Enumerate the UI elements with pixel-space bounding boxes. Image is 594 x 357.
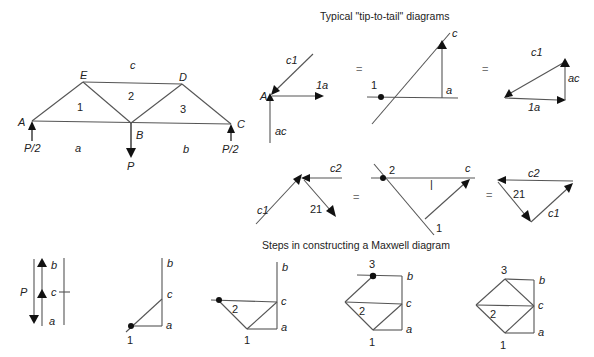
label-3: 3 — [369, 258, 375, 270]
label-1: 1 — [369, 336, 375, 348]
label-1a: 1a — [316, 79, 328, 91]
vector-1a — [505, 98, 558, 100]
label-b: b — [407, 270, 413, 282]
reaction-label-left: P/2 — [24, 142, 41, 154]
divider-mark: | — [430, 178, 433, 190]
region-label-1: 1 — [77, 101, 83, 113]
node-label-b: B — [136, 129, 143, 141]
row2-construction: 2 c 1 — [371, 162, 475, 235]
equals-sign: = — [482, 63, 488, 75]
label-1: 1 — [500, 339, 506, 351]
line-c1-direction — [372, 33, 450, 124]
label-ac: ac — [275, 125, 287, 137]
member-c2 — [476, 305, 534, 306]
arrowhead-up-icon — [437, 40, 447, 49]
label-b: b — [539, 274, 545, 286]
maxwell-step-5: 3 b c 2 a 1 — [476, 264, 545, 351]
equals-sign: = — [356, 63, 362, 75]
equals-sign: = — [353, 191, 359, 203]
node-label-d: D — [179, 71, 187, 83]
arrowhead-icon — [564, 183, 573, 193]
member-c1 — [505, 306, 534, 333]
label-ac: ac — [568, 72, 580, 84]
maxwell-step-3: b c 2 a 1 — [211, 261, 288, 346]
label-c2: c2 — [528, 167, 540, 179]
label-c1: c1 — [548, 207, 560, 219]
vector-c1 — [256, 180, 297, 224]
member-c2 — [345, 302, 402, 304]
point-1-dot — [378, 94, 384, 100]
label-b: b — [51, 259, 57, 271]
title-tip-to-tail: Typical "tip-to-tail" diagrams — [320, 10, 449, 22]
arrowhead-up-icon — [227, 124, 235, 133]
label-2: 2 — [389, 164, 395, 176]
label-a: a — [538, 326, 544, 338]
arrowhead-icon — [504, 89, 513, 98]
label-c1: c1 — [531, 46, 543, 58]
arrowhead-up-icon — [28, 121, 36, 130]
node-label-a: A — [17, 116, 25, 128]
label-b: b — [282, 261, 288, 273]
label-p: P — [20, 286, 28, 298]
member-e3 — [476, 279, 505, 305]
node-label-c: C — [237, 118, 245, 130]
label-21: 21 — [513, 188, 525, 200]
label-1a: 1a — [528, 101, 540, 113]
label-2: 2 — [359, 305, 365, 317]
member-3c — [505, 279, 534, 306]
label-c: c — [51, 286, 57, 298]
point-3-dot — [370, 273, 376, 279]
vector-c1 — [509, 63, 563, 94]
label-c1: c1 — [286, 54, 298, 66]
member-dc — [182, 84, 231, 124]
label-c: c — [452, 27, 458, 39]
line-21-direction — [374, 164, 434, 235]
label-3: 3 — [501, 264, 507, 276]
label-a: a — [406, 323, 412, 335]
load-label-p: P — [127, 160, 135, 172]
member-c1 — [373, 304, 402, 330]
arrowhead-right-icon — [315, 92, 324, 100]
member-ed — [83, 82, 182, 84]
arrowhead-down-icon — [126, 148, 136, 158]
member-e3 — [345, 276, 373, 302]
member-ae — [32, 82, 83, 121]
point-2-dot — [216, 297, 222, 303]
region-label-c: c — [130, 59, 136, 71]
label-node-a: A — [259, 90, 267, 102]
node-label-e: E — [80, 69, 88, 81]
member-3b — [357, 275, 402, 276]
region-label-a: a — [75, 142, 81, 154]
arrowhead-left-icon — [301, 174, 310, 182]
label-c: c — [538, 299, 544, 311]
label-a: a — [49, 315, 55, 327]
label-a: a — [281, 321, 287, 333]
member-c1 — [247, 302, 277, 329]
title-maxwell-steps: Steps in constructing a Maxwell diagram — [262, 239, 450, 251]
region-label-3: 3 — [180, 103, 186, 115]
label-c: c — [465, 162, 471, 174]
label-c: c — [167, 288, 173, 300]
maxwell-step-4: 3 b c 2 a 1 — [345, 258, 413, 348]
label-21: 21 — [310, 203, 322, 215]
label-c2: c2 — [330, 162, 342, 174]
maxwell-step-2: b c a 1 — [126, 257, 173, 346]
label-1: 1 — [127, 334, 133, 346]
truss-diagram: A E D B C c 1 2 3 a b P/2 P/2 P — [17, 59, 245, 172]
label-b: b — [167, 257, 173, 269]
label-1: 1 — [436, 222, 442, 234]
label-a: a — [166, 319, 172, 331]
arrowhead-icon — [271, 85, 280, 95]
row2-free-body-node-e: c1 c2 21 — [256, 162, 342, 224]
arrowhead-up-icon — [37, 258, 47, 267]
row2-force-triangle: c2 21 c1 — [497, 167, 573, 222]
label-2: 2 — [232, 303, 238, 315]
arrowhead-icon — [461, 179, 470, 189]
label-c: c — [406, 297, 412, 309]
label-2: 2 — [490, 308, 496, 320]
label-c: c — [281, 295, 287, 307]
label-1: 1 — [244, 334, 250, 346]
equals-sign: = — [486, 189, 492, 201]
reaction-label-right: P/2 — [222, 143, 239, 155]
member-bd — [131, 84, 182, 123]
